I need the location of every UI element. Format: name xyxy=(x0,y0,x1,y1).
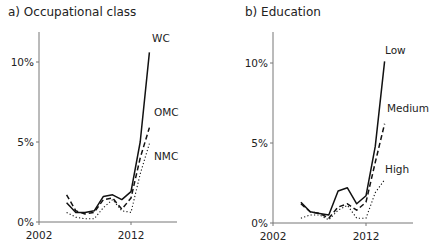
series-label-high: High xyxy=(385,163,409,175)
x-tick-label: 2002 xyxy=(26,229,53,241)
y-tick-label: 10% xyxy=(11,56,34,68)
y-tick-label: 5% xyxy=(251,137,268,149)
figure: a) Occupational class b) Education 0%5%1… xyxy=(0,0,434,251)
x-tick-label: 2012 xyxy=(118,229,145,241)
series-label-medium: Medium xyxy=(387,102,429,114)
series-line-nmc xyxy=(67,144,150,219)
y-tick-label: 5% xyxy=(17,136,34,148)
series-line-high xyxy=(301,180,385,220)
x-tick-label: 2002 xyxy=(260,230,287,242)
series-label-omc: OMC xyxy=(154,106,179,118)
series-label-wc: WC xyxy=(152,32,170,44)
chart-canvas: 0%5%10%20022012WCOMCNMC0%5%10%20022012Lo… xyxy=(0,0,434,251)
series-line-medium xyxy=(301,124,385,218)
y-tick-label: 10% xyxy=(245,57,268,69)
series-line-wc xyxy=(67,52,150,212)
y-tick-label: 0% xyxy=(17,216,34,228)
series-label-nmc: NMC xyxy=(154,150,178,162)
y-tick-label: 0% xyxy=(251,217,268,229)
x-tick-label: 2012 xyxy=(353,230,380,242)
series-line-omc xyxy=(67,128,150,214)
series-label-low: Low xyxy=(385,44,406,56)
series-line-low xyxy=(301,61,385,215)
